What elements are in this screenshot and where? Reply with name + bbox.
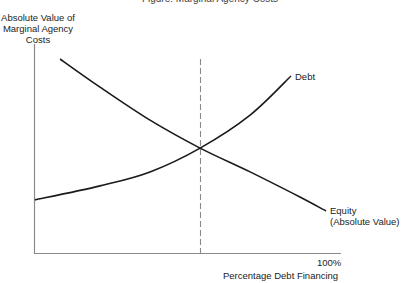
debt-curve	[35, 76, 291, 200]
x-axis-label: Percentage Debt Financing	[223, 270, 338, 281]
equity-series-label: Equity (Absolute Value)	[330, 205, 400, 227]
equity-label-line-1: Equity	[330, 205, 400, 216]
plot-area	[0, 0, 414, 283]
x-tick-100-percent: 100%	[317, 257, 341, 268]
debt-series-label: Debt	[295, 71, 315, 82]
equity-label-line-2: (Absolute Value)	[330, 216, 400, 227]
